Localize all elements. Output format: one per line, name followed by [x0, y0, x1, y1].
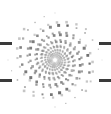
spiral-dot [59, 39, 61, 41]
spiral-dot [57, 66, 58, 67]
spiral-dot [44, 16, 45, 17]
spiral-dot [52, 73, 54, 75]
spiral-dot [46, 68, 48, 70]
spiral-dot [44, 59, 45, 60]
spiral-dot [46, 64, 48, 66]
spiral-dot [72, 34, 74, 36]
spiral-dot [36, 53, 38, 55]
spiral-dot [85, 45, 87, 47]
spiral-dot [79, 78, 81, 80]
spiral-dot [48, 65, 50, 67]
spiral-dot [42, 64, 44, 66]
spiral-dot [56, 56, 57, 57]
spiral-dot [47, 49, 49, 51]
spiral-dot [59, 45, 61, 47]
dash-right-upper [99, 42, 111, 45]
spiral-dot [76, 77, 79, 80]
spiral-dot [48, 77, 51, 80]
spiral-dot [60, 62, 61, 63]
spiral-dot [35, 83, 37, 85]
spiral-dot [56, 21, 58, 23]
spiral-dot [19, 55, 22, 58]
spiral-dot [81, 89, 83, 91]
spiral-dot [72, 83, 74, 85]
spiral-dot [43, 86, 45, 88]
spiral-dot [52, 67, 53, 68]
spiral-dot [75, 23, 77, 25]
spiral-dot [73, 70, 75, 72]
spiral-dot [74, 59, 76, 61]
spiral-dot [66, 34, 69, 37]
spiral-dot [52, 58, 53, 59]
spiral-dot [68, 57, 70, 59]
spiral-dot [61, 58, 62, 59]
spiral-dot [52, 50, 53, 51]
spiral-dot [65, 42, 67, 44]
spiral-dot [64, 40, 66, 42]
spiral-dot [44, 54, 46, 56]
spiral-dot [34, 34, 36, 36]
spiral-dot [44, 57, 45, 58]
spiral-dot [29, 53, 31, 55]
spiral-dot [42, 93, 44, 95]
spiral-dot [47, 55, 49, 57]
spiral-dot [57, 59, 58, 60]
spiral-dot [24, 70, 27, 73]
spiral-dot [29, 40, 31, 42]
spiral-dot [57, 52, 59, 54]
spiral-dot [48, 62, 50, 64]
spiral-dot [57, 49, 59, 51]
spiral-dot [34, 22, 35, 23]
spiral-dot [49, 79, 51, 81]
spiral-dot [17, 79, 18, 80]
spiral-dot [60, 55, 61, 56]
spiral-dot [81, 63, 83, 65]
spiral-dot [29, 79, 31, 81]
spiral-dot [98, 49, 99, 50]
spiral-dot [65, 62, 67, 64]
spiral-dot [60, 60, 61, 61]
spiral-dot [89, 63, 91, 65]
spiral-dot [53, 46, 55, 48]
spiral-dot [59, 63, 60, 64]
spiral-dot [58, 61, 59, 62]
spiral-dot [38, 76, 40, 78]
spiral-dot [57, 54, 58, 55]
spiral-dot [55, 58, 56, 59]
spiral-dot [55, 65, 56, 66]
spiral-dot [74, 84, 76, 86]
dash-right-lower [99, 79, 111, 82]
spiral-dot [52, 59, 53, 60]
spiral-dot [70, 42, 72, 44]
spiral-dot [29, 60, 31, 62]
spiral-dot [50, 41, 52, 43]
spiral-dot [63, 46, 65, 48]
spiral-dot [50, 51, 52, 53]
spiral-dot [55, 13, 56, 14]
spiral-dot [44, 78, 46, 80]
spiral-dot [79, 39, 81, 41]
spiral-dot [40, 58, 41, 59]
spiral-dot [34, 72, 36, 74]
spiral-dot [84, 32, 86, 34]
spiral-dot [58, 31, 60, 33]
spiral-dot [27, 29, 29, 31]
spiral-dot [51, 64, 52, 65]
spiral-dot [50, 87, 52, 89]
spiral-dot [58, 60, 59, 61]
spiral-dot [19, 66, 21, 68]
spiral-dot [60, 59, 61, 60]
spiral-dot [78, 41, 81, 44]
spiral-dot [48, 37, 50, 39]
spiral-dot [27, 47, 29, 49]
spiral-dot [53, 62, 54, 63]
spiral-dot [92, 39, 94, 41]
spiral-dot [66, 55, 68, 57]
spiral-dot [58, 59, 59, 60]
spiral-dot [57, 59, 58, 60]
spiral-dot [68, 61, 70, 63]
spiral-dot [68, 90, 70, 92]
spiral-dot [58, 77, 60, 79]
spiral-dot [62, 75, 64, 77]
spiral-dot [30, 67, 32, 69]
